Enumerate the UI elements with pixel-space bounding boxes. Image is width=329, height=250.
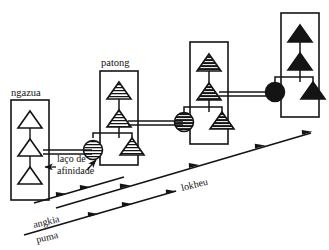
group-label-ngazua: ngazua [11,87,41,98]
triangle-ngazua-2 [18,139,42,156]
sibling-bar-patong [93,133,132,140]
axis-label-angkia: angkia [32,213,61,230]
triangle-three-1 [197,54,221,71]
triangle-patong-1 [107,82,131,99]
group-ngazua: ngazua [11,87,49,200]
axis-lower-second-line [34,177,124,203]
diagram-canvas: ngazua patong [0,0,329,250]
triangle-four-2 [288,53,312,70]
kinship-diagram-figure: ngazua patong [0,0,329,250]
triangle-three-2 [197,83,221,100]
triangle-four-1 [288,25,312,42]
triangle-ngazua-1 [18,111,42,128]
axis-group [24,130,313,235]
group-label-patong: patong [101,57,130,68]
affinity-tie-line-2: afinidade [57,165,95,176]
triangle-patong-2 [107,110,131,127]
axis-label-lokheu: lokheu [180,176,209,193]
group-three [175,42,235,144]
triangle-ngazua-3 [18,167,42,184]
group-patong: patong [84,57,145,165]
axis-lower-angkia-puma [24,189,177,235]
circle-three-female [175,113,194,132]
marriage-links [43,92,274,154]
triangle-three-3 [210,112,234,129]
group-four [266,13,326,117]
affinity-tie-line-1: laço de [57,153,86,164]
triangle-four-3 [301,82,325,99]
triangle-patong-3 [120,138,144,155]
